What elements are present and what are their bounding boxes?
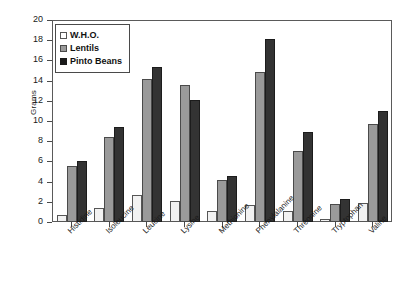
bar-lentils[interactable] <box>368 124 378 222</box>
bar-group <box>279 20 317 222</box>
legend-swatch-who-icon <box>60 32 67 39</box>
legend-item-lentils[interactable]: Lentils <box>60 42 122 55</box>
y-axis-tick-label: 4 <box>38 176 43 187</box>
bar-pinto[interactable] <box>265 39 275 222</box>
bar-who[interactable] <box>207 211 217 222</box>
y-axis-tick-label: 16 <box>33 54 43 65</box>
bar-chart-figure: Grams 02468101214161820 HistidineIsoleuc… <box>0 0 399 286</box>
bar-lentils[interactable] <box>104 137 114 222</box>
legend-swatch-pinto-beans-icon <box>60 58 67 65</box>
bar-lentils[interactable] <box>67 166 77 222</box>
y-axis-tick-label: 20 <box>33 14 43 25</box>
bar-lentils[interactable] <box>255 72 265 222</box>
bar-pinto[interactable] <box>190 100 200 222</box>
bar-lentils[interactable] <box>293 151 303 222</box>
y-axis-tick-label: 18 <box>33 34 43 45</box>
y-axis-tick-label: 12 <box>33 95 43 106</box>
bar-pinto[interactable] <box>152 67 162 222</box>
y-axis: 02468101214161820 <box>0 0 52 286</box>
bar-lentils[interactable] <box>180 85 190 222</box>
bar-pinto[interactable] <box>378 111 388 222</box>
bar-group <box>354 20 392 222</box>
legend-label-who: W.H.O. <box>70 30 99 41</box>
y-axis-tick-label: 8 <box>38 135 43 146</box>
y-axis-tick-label: 10 <box>33 115 43 126</box>
y-axis-tick-label: 14 <box>33 75 43 86</box>
bar-who[interactable] <box>170 201 180 222</box>
legend-item-who[interactable]: W.H.O. <box>60 29 122 42</box>
y-axis-tick-label: 2 <box>38 196 43 207</box>
bar-pinto[interactable] <box>114 127 124 222</box>
legend-swatch-lentils-icon <box>60 45 67 52</box>
bar-who[interactable] <box>57 215 67 222</box>
bar-group <box>166 20 204 222</box>
bar-group <box>241 20 279 222</box>
bar-group <box>317 20 355 222</box>
bar-lentils[interactable] <box>142 79 152 222</box>
bar-group <box>204 20 242 222</box>
bar-group <box>128 20 166 222</box>
legend-label-lentils: Lentils <box>70 43 99 54</box>
y-axis-tick-label: 0 <box>38 216 43 227</box>
bar-lentils[interactable] <box>217 180 227 222</box>
legend-item-pinto-beans[interactable]: Pinto Beans <box>60 55 122 68</box>
bar-who[interactable] <box>283 211 293 222</box>
bar-who[interactable] <box>94 208 104 222</box>
chart-legend: W.H.O. Lentils Pinto Beans <box>55 24 130 73</box>
y-axis-tick-label: 6 <box>38 155 43 166</box>
legend-label-pinto-beans: Pinto Beans <box>70 56 122 67</box>
